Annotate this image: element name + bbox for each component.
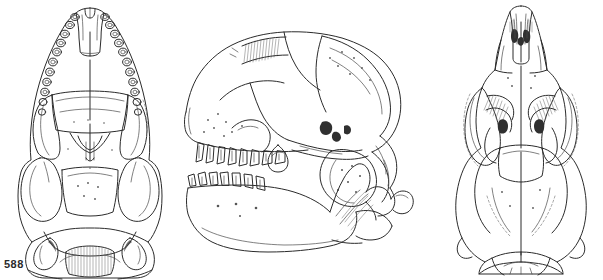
masseteric-fossa-hatching <box>342 192 373 230</box>
left-upper-tooth-row <box>38 14 79 116</box>
dorsal-skull-outline <box>456 6 587 275</box>
ventral-skull-drawing <box>0 0 180 280</box>
dorsal-skull-figure: +ŋ <box>440 0 603 280</box>
ventral-skull-outline <box>18 8 162 279</box>
plate-number: 588 <box>4 259 24 270</box>
illustration-plate: 588 <box>0 0 603 280</box>
mandible <box>187 164 414 252</box>
upper-tooth-row-lateral <box>196 143 285 166</box>
dorsal-skull-drawing <box>440 0 603 280</box>
temporal-crest-hatching <box>244 39 279 62</box>
ventral-skull-figure: 588 <box>0 0 180 280</box>
lateral-skull-figure <box>180 0 440 280</box>
right-upper-tooth-row <box>101 14 142 116</box>
lower-tooth-row <box>188 172 265 190</box>
foramen-magnum <box>66 246 115 277</box>
lateral-skull-drawing <box>180 0 440 280</box>
